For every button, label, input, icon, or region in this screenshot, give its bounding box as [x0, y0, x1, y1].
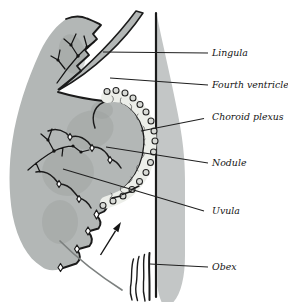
branch-node: [69, 43, 72, 46]
label-uvula: Uvula: [212, 205, 240, 216]
branch-node: [76, 54, 79, 57]
label-fourth-ventricle: Fourth ventricle: [211, 79, 288, 90]
branch-node: [46, 138, 49, 141]
branch-node: [56, 58, 59, 61]
diagram-canvas: Lingula Fourth ventricle Choroid plexus …: [0, 0, 288, 308]
shade-patch: [42, 148, 94, 196]
label-choroid-plexus: Choroid plexus: [212, 111, 284, 122]
leader-lingula: [103, 52, 208, 53]
obex-folds: [130, 253, 149, 301]
anatomy-figure: Lingula Fourth ventricle Choroid plexus …: [0, 0, 288, 308]
branch-node: [79, 150, 82, 153]
direction-arrow: [101, 222, 122, 255]
branch-node: [71, 144, 74, 147]
shade-patch: [42, 200, 78, 244]
cerebellum: [10, 11, 145, 272]
labels: Lingula Fourth ventricle Choroid plexus …: [211, 47, 288, 272]
label-nodule: Nodule: [211, 157, 247, 168]
arrow-head: [113, 222, 121, 232]
branch-node: [85, 45, 88, 48]
label-lingula: Lingula: [211, 47, 248, 58]
branch-node: [52, 149, 55, 152]
label-obex: Obex: [212, 261, 237, 272]
